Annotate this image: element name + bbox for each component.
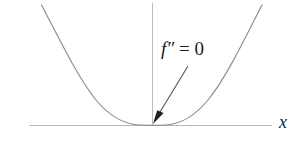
inflection-annotation-label: f″ = 0 bbox=[161, 39, 204, 58]
plot-svg bbox=[0, 0, 303, 142]
annotation-arrow-shaft bbox=[159, 66, 189, 115]
annotation-prime-symbol: ″ bbox=[166, 38, 174, 59]
x-axis-label: x bbox=[279, 113, 287, 131]
figure-canvas: f″ = 0 x bbox=[0, 0, 303, 142]
quartic-curve bbox=[42, 5, 263, 125]
annotation-value: 0 bbox=[194, 38, 204, 59]
annotation-arrow-head bbox=[153, 110, 164, 124]
annotation-equals-symbol: = bbox=[179, 38, 190, 59]
